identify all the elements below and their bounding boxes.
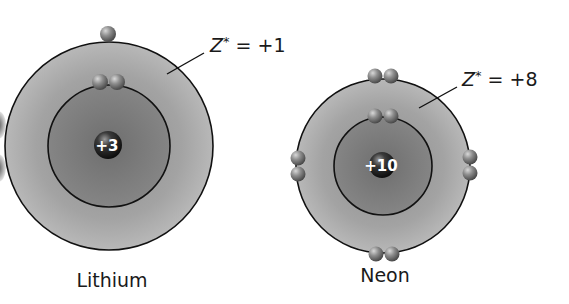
electron-icon [384,109,399,124]
lithium-nucleus-charge: +3 [95,137,118,155]
electron-icon [385,247,400,262]
electron-icon [291,151,306,166]
electron-icon [368,109,383,124]
electron-icon [100,26,116,42]
lithium-nucleus: +3 [94,131,122,159]
electron-icon [463,166,478,181]
electron-icon [368,69,383,84]
neon-name-label: Neon [360,264,410,286]
lithium-atom: +3 Z* = +1 Lithium [5,26,286,291]
electron-icon [463,150,478,165]
atom-comparison-diagram: +3 Z* = +1 Lithium +10 [0,0,569,304]
neon-nucleus-charge: +10 [364,157,397,175]
electron-icon [291,167,306,182]
neon-atom: +10 Z* = +8 Neon [291,68,538,286]
electron-icon [92,74,108,90]
neon-zeff-label: Z* = +8 [461,68,538,90]
electron-icon [369,247,384,262]
lithium-zeff-label: Z* = +1 [209,34,286,56]
electron-icon [109,74,125,90]
electron-icon [384,69,399,84]
lithium-name-label: Lithium [76,269,147,291]
